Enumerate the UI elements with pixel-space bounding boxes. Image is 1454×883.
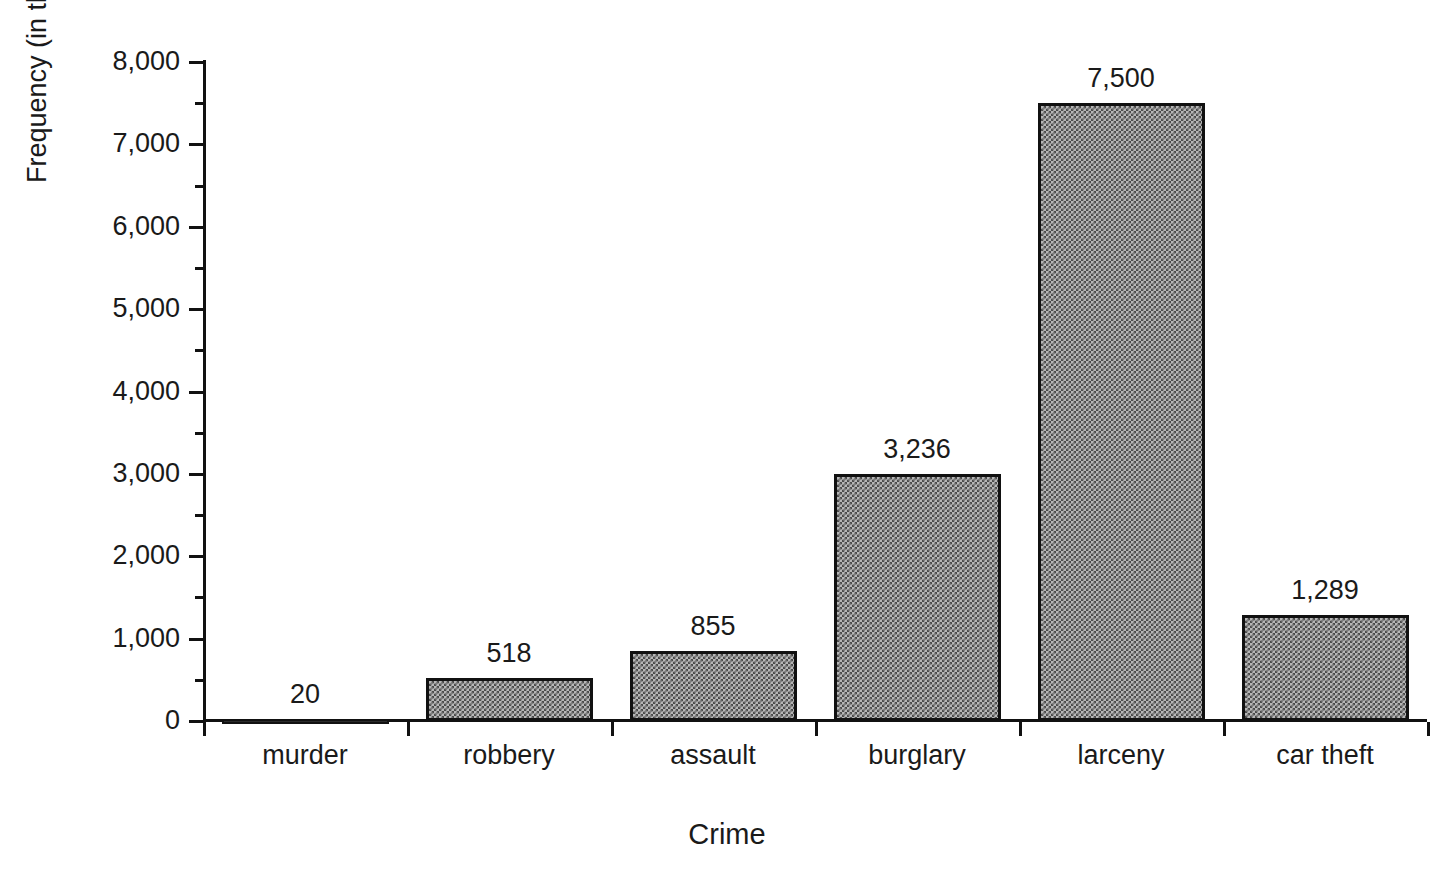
y-tick-major xyxy=(189,473,206,476)
x-tick xyxy=(203,722,206,736)
y-tick-label: 4,000 xyxy=(30,378,180,405)
y-tick-major xyxy=(189,638,206,641)
y-tick-label: 2,000 xyxy=(30,542,180,569)
x-tick xyxy=(815,722,818,736)
x-tick xyxy=(1223,722,1226,736)
bar-value-label: 20 xyxy=(215,681,395,708)
x-axis-title: Crime xyxy=(0,818,1454,851)
y-tick-minor xyxy=(195,596,206,599)
y-tick-minor xyxy=(195,267,206,270)
x-tick xyxy=(1019,722,1022,736)
y-tick-minor xyxy=(195,679,206,682)
bar-larceny xyxy=(1038,103,1205,721)
x-tick xyxy=(1427,722,1430,736)
x-tick xyxy=(611,722,614,736)
y-tick-minor xyxy=(195,185,206,188)
x-tick xyxy=(407,722,410,736)
y-tick-label-wrap: 6,000 xyxy=(25,213,180,240)
y-tick-label-wrap: 3,000 xyxy=(25,460,180,487)
y-tick-major xyxy=(189,226,206,229)
y-tick-label: 1,000 xyxy=(30,625,180,652)
y-tick-major xyxy=(189,555,206,558)
bar-assault xyxy=(630,651,797,721)
y-tick-label: 5,000 xyxy=(30,295,180,322)
y-tick-label: 6,000 xyxy=(30,213,180,240)
bar-value-label: 1,289 xyxy=(1235,577,1415,604)
bar-value-label: 3,236 xyxy=(827,436,1007,463)
category-label: larceny xyxy=(1011,740,1231,770)
category-label: robbery xyxy=(399,740,619,770)
category-label: murder xyxy=(195,740,415,770)
y-tick-minor xyxy=(195,102,206,105)
plot-area: 01,0002,0003,0004,0005,0006,0007,0008,00… xyxy=(0,0,1454,883)
bar-value-label: 7,500 xyxy=(1031,65,1211,92)
y-tick-label-wrap: 0 xyxy=(25,707,180,734)
bar-value-label: 855 xyxy=(623,613,803,640)
y-tick-minor xyxy=(195,349,206,352)
y-tick-label: 0 xyxy=(30,707,180,734)
category-label: car theft xyxy=(1215,740,1435,770)
y-tick-label-wrap: 2,000 xyxy=(25,542,180,569)
y-tick-label-wrap: 1,000 xyxy=(25,625,180,652)
y-tick-major xyxy=(189,61,206,64)
bar-robbery xyxy=(426,678,593,721)
y-axis-title: Frequency (in thousands) xyxy=(17,0,57,210)
y-tick-label-wrap: 4,000 xyxy=(25,378,180,405)
bar-car-theft xyxy=(1242,615,1409,721)
bar-burglary xyxy=(834,474,1001,721)
y-tick-label: 3,000 xyxy=(30,460,180,487)
category-label: burglary xyxy=(807,740,1027,770)
y-tick-minor xyxy=(195,514,206,517)
y-tick-major xyxy=(189,391,206,394)
category-label: assault xyxy=(603,740,823,770)
y-tick-major xyxy=(189,308,206,311)
bar-murder xyxy=(222,719,389,724)
y-tick-label-wrap: 5,000 xyxy=(25,295,180,322)
bar-value-label: 518 xyxy=(419,640,599,667)
y-tick-minor xyxy=(195,432,206,435)
y-tick-major xyxy=(189,143,206,146)
bar-chart: 01,0002,0003,0004,0005,0006,0007,0008,00… xyxy=(0,0,1454,883)
